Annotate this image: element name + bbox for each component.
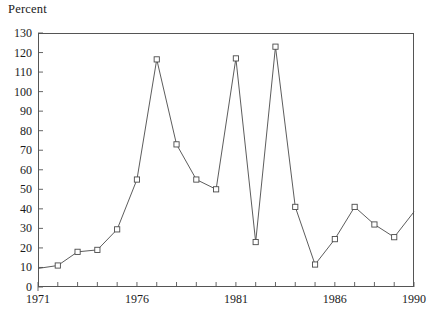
data-point-marker [233, 56, 238, 61]
y-tick-label: 60 [2, 162, 32, 177]
data-point-marker [392, 235, 397, 240]
y-tick-label: 40 [2, 201, 32, 216]
data-point-marker [253, 239, 258, 244]
x-tick-label: 1986 [312, 292, 358, 307]
data-point-marker [332, 237, 337, 242]
data-point-marker [214, 187, 219, 192]
y-tick-label: 110 [2, 65, 32, 80]
data-point-marker [154, 57, 159, 62]
data-point-marker [273, 44, 278, 49]
y-tick-label: 30 [2, 221, 32, 236]
x-tick-label: 1971 [15, 292, 61, 307]
data-point-marker [293, 204, 298, 209]
data-point-markers [55, 44, 397, 268]
data-point-marker [312, 262, 317, 267]
y-tick-label: 20 [2, 240, 32, 255]
x-tick-label: 1990 [391, 292, 431, 307]
y-tick-label: 130 [2, 26, 32, 41]
x-axis-ticks [38, 282, 414, 291]
y-tick-label: 90 [2, 104, 32, 119]
y-tick-label: 120 [2, 45, 32, 60]
data-point-marker [115, 227, 120, 232]
y-tick-label: 50 [2, 182, 32, 197]
data-point-marker [372, 222, 377, 227]
data-point-marker [352, 204, 357, 209]
y-tick-label: 70 [2, 143, 32, 158]
x-tick-label: 1981 [213, 292, 259, 307]
data-point-marker [134, 177, 139, 182]
data-point-marker [174, 142, 179, 147]
y-axis-ticks [38, 33, 43, 287]
y-tick-label: 10 [2, 260, 32, 275]
data-point-marker [95, 247, 100, 252]
data-point-marker [75, 249, 80, 254]
y-tick-label: 80 [2, 123, 32, 138]
data-point-marker [194, 177, 199, 182]
y-tick-label: 100 [2, 84, 32, 99]
data-point-marker [55, 263, 60, 268]
data-line-series-percent [38, 47, 414, 269]
x-tick-label: 1976 [114, 292, 160, 307]
